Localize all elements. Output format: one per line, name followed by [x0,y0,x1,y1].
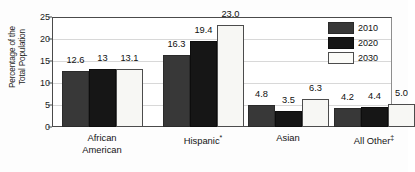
bar-value-2020-hispanic: 19.4 [194,25,212,35]
bar-value-2020-asian: 3.5 [282,95,295,105]
y-tick-label-15: 15 [10,56,50,66]
bar-2010-asian [248,105,275,127]
bar-value-2010-all-other: 4.2 [341,92,354,102]
bar-2020-all-other [361,107,388,127]
legend-item-2020: 2020 [328,36,378,50]
legend-item-2010: 2010 [328,21,378,35]
legend: 2010 2020 2030 [328,21,378,66]
bar-2010-all-other [334,108,361,127]
bar-value-2010-asian: 4.8 [255,89,268,99]
bar-value-2020-african-american: 13 [97,53,107,63]
bar-value-2010-hispanic: 16.3 [167,39,185,49]
footnote-marker-asterisk: * [220,134,223,141]
y-tick-label-25: 25 [10,12,50,22]
x-axis-label-hispanic: Hispanic* [184,132,223,147]
bar-value-2030-asian: 6.3 [309,83,322,93]
bar-value-2030-african-american: 13.1 [120,53,138,63]
legend-label-2020: 2020 [358,38,378,48]
bar-value-2030-all-other: 5.0 [395,88,408,98]
legend-swatch-2010 [328,22,354,34]
bar-2010-african-american [62,71,89,127]
x-label-line1: Hispanic [184,135,220,146]
x-label-line1: African [87,132,116,143]
x-label-line2: American [82,144,122,155]
y-tick-label-20: 20 [10,34,50,44]
bar-2020-asian [275,111,302,127]
legend-swatch-2020 [328,37,354,49]
x-label-line1: Asian [276,132,299,143]
bar-2020-hispanic [190,41,217,127]
legend-label-2030: 2030 [358,53,378,63]
bar-2010-hispanic [163,55,190,127]
bar-value-2010-african-american: 12.6 [66,55,84,65]
x-label-line1: All Other [354,135,390,146]
y-tick-label-5: 5 [10,100,50,110]
y-tick-label-0: 0 [10,122,50,132]
bar-value-2020-all-other: 4.4 [368,91,381,101]
x-axis-label-african-american: African American [82,132,122,155]
x-axis-label-asian: Asian [276,132,299,144]
legend-label-2010: 2010 [358,23,378,33]
bar-value-2030-hispanic: 23.0 [221,9,239,19]
footnote-marker-double-dagger: ‡ [390,134,394,141]
x-axis-label-all-other: All Other‡ [354,132,394,147]
legend-swatch-2030 [328,52,354,64]
y-tick-label-10: 10 [10,78,50,88]
bar-2030-hispanic [217,25,244,127]
bar-2020-african-american [89,69,116,127]
bar-2030-asian [302,99,329,127]
bar-2030-all-other [388,104,415,127]
legend-item-2030: 2030 [328,51,378,65]
bar-2030-african-american [116,69,143,127]
